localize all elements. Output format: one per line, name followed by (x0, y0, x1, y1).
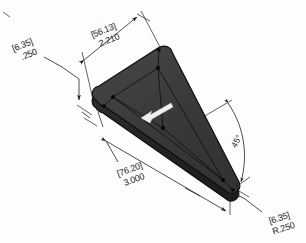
label-corner-radius: [6.35] R.250 (268, 209, 297, 236)
dimension-thickness (44, 57, 97, 126)
technical-drawing-canvas: [6.35] .250 [56.13] 2.210 [76.20] 3.000 … (0, 0, 306, 243)
label-thickness: [6.35] .250 (11, 36, 39, 64)
label-corner-angle: 45° (229, 133, 244, 149)
corner-tick-mark (3, 12, 10, 17)
label-short-side: [56.13] 2.210 (89, 21, 121, 50)
dimension-corner-radius (232, 191, 262, 212)
part-solid-group (92, 46, 240, 201)
label-corner-angle-value: 45° (229, 133, 244, 149)
label-base-length: [76.20] 3.000 (116, 160, 148, 189)
drawing-svg: [6.35] .250 [56.13] 2.210 [76.20] 3.000 … (0, 0, 306, 243)
